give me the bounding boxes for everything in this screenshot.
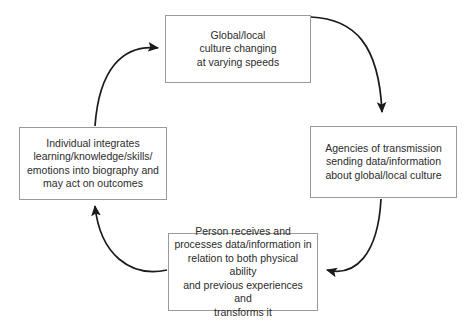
edge-top-to-right bbox=[311, 17, 382, 112]
node-bottom-label: Person receives and processes data/infor… bbox=[169, 225, 317, 319]
node-agencies-of-transmission[interactable]: Agencies of transmission sending data/in… bbox=[310, 126, 457, 198]
edge-bottom-to-left bbox=[95, 206, 167, 272]
edge-left-to-top bbox=[95, 48, 158, 126]
node-right-label: Agencies of transmission sending data/in… bbox=[321, 142, 446, 182]
diagram-canvas: Global/local culture changing at varying… bbox=[0, 0, 475, 325]
node-top-label: Global/local culture changing at varying… bbox=[193, 29, 283, 69]
node-person-receives[interactable]: Person receives and processes data/infor… bbox=[168, 233, 318, 311]
node-global-local-culture[interactable]: Global/local culture changing at varying… bbox=[165, 15, 311, 83]
edge-right-to-bottom bbox=[327, 199, 381, 271]
node-individual-integrates[interactable]: Individual integrates learning/knowledge… bbox=[19, 127, 167, 200]
node-left-label: Individual integrates learning/knowledge… bbox=[23, 137, 163, 191]
